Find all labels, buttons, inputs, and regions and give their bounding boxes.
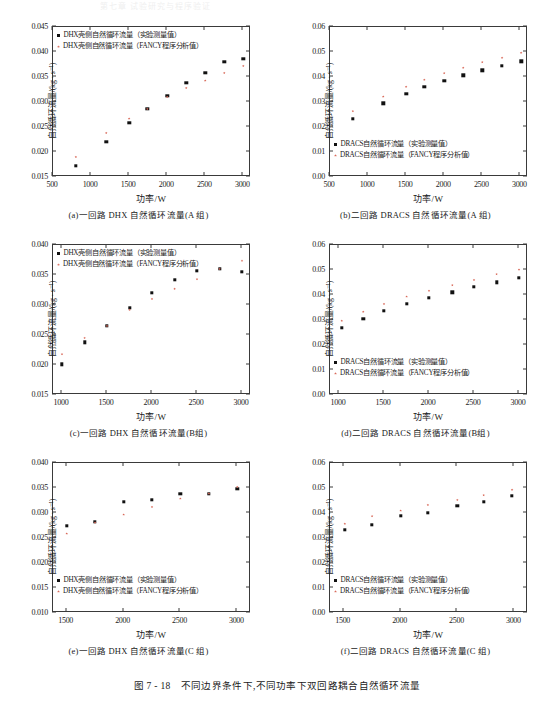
legend-entry-d-0: DRACS自然循环流量（实验测量值） xyxy=(334,357,474,368)
data-point-c-s1-4 xyxy=(151,298,154,301)
xtick-mark-top-d-3 xyxy=(473,244,474,248)
plot-area-a: DHX壳侧自然循环流量（实验测量值）DHX壳侧自然循环流量（FANCY程序分析值… xyxy=(52,26,250,176)
xtick-mark-c-2 xyxy=(151,390,152,394)
subplot-caption-c: (c)一回路 DHX 自然循环流量(B组) xyxy=(0,426,277,438)
data-point-d-s1-8 xyxy=(518,268,521,271)
xtick-mark-a-5 xyxy=(242,172,243,176)
legend-d: DRACS自然循环流量（实验测量值）DRACS自然循环流量（FANCY程序分析值… xyxy=(334,357,474,379)
ytick-mark-right-e-5 xyxy=(246,487,250,488)
xtick-label-d-1: 1500 xyxy=(376,398,391,407)
xtick-label-d-4: 3000 xyxy=(511,398,526,407)
xtick-label-a-5: 3000 xyxy=(235,180,250,189)
data-point-c-s0-4 xyxy=(150,291,153,294)
data-point-f-s1-3 xyxy=(426,504,429,507)
subplot-caption-e: (e)一回路 DHX 自然循环流量(C 组) xyxy=(0,644,277,656)
xtick-mark-d-3 xyxy=(473,390,474,394)
data-point-b-s1-4 xyxy=(443,72,446,75)
data-point-a-s1-1 xyxy=(105,132,108,135)
data-point-b-s0-7 xyxy=(500,64,503,67)
legend-label-b-1: DRACS自然循环流量（FANCY程序分析值） xyxy=(340,150,474,161)
ytick-mark-right-c-3 xyxy=(246,304,250,305)
ytick-mark-right-b-3 xyxy=(523,101,527,102)
chart-panel-b: DRACS自然循环流量（实验测量值）DRACS自然循环流量（FANCY程序分析值… xyxy=(277,14,554,232)
xtick-mark-top-c-3 xyxy=(196,244,197,248)
plot-area-d: DRACS自然循环流量（实验测量值）DRACS自然循环流量（FANCY程序分析值… xyxy=(329,244,527,394)
ytick-mark-right-a-2 xyxy=(246,126,250,127)
xtick-label-b-4: 2500 xyxy=(474,180,489,189)
ytick-mark-right-e-1 xyxy=(246,587,250,588)
ytick-mark-right-b-5 xyxy=(523,51,527,52)
ytick-mark-right-a-0 xyxy=(246,176,250,177)
panel-cell-e: DHX壳侧自然循环流量（实验测量值）DHX壳侧自然循环流量（FANCY程序分析值… xyxy=(0,450,277,668)
y-axis-label-a: 自然循环流量/(kg · s⁻¹) xyxy=(46,26,60,176)
legend-entry-e-1: DHX壳侧自然循环流量（FANCY程序分析值） xyxy=(57,586,203,597)
data-point-a-s0-5 xyxy=(185,81,188,84)
data-point-d-s1-5 xyxy=(451,284,454,287)
ytick-mark-right-d-5 xyxy=(523,269,527,270)
data-point-d-s1-6 xyxy=(473,279,476,282)
ytick-mark-right-e-4 xyxy=(246,512,250,513)
xtick-label-a-0: 500 xyxy=(46,180,57,189)
data-point-c-s0-1 xyxy=(83,340,86,343)
data-point-d-s0-0 xyxy=(340,326,343,329)
subplot-caption-f: (f)二回路 DRACS 自然循环流量(C 组) xyxy=(277,644,554,656)
data-point-b-s0-6 xyxy=(481,69,484,72)
y-axis-label-d: 自然循环流量/(kg · s⁻¹) xyxy=(323,244,337,394)
xtick-mark-a-1 xyxy=(90,172,91,176)
legend-b: DRACS自然循环流量（实验测量值）DRACS自然循环流量（FANCY程序分析值… xyxy=(334,139,474,161)
xtick-mark-b-1 xyxy=(367,172,368,176)
data-point-e-s0-3 xyxy=(150,498,153,501)
data-point-b-s1-3 xyxy=(423,78,426,81)
chart-panel-c: DHX壳侧自然循环流量（实验测量值）DHX壳侧自然循环流量（FANCY程序分析值… xyxy=(0,232,277,450)
xtick-mark-top-a-2 xyxy=(128,26,129,30)
ytick-mark-right-b-0 xyxy=(523,176,527,177)
data-point-b-s0-2 xyxy=(404,92,407,95)
ytick-mark-right-f-4 xyxy=(523,512,527,513)
legend-label-d-0: DRACS自然循环流量（实验测量值） xyxy=(340,357,451,368)
xtick-mark-top-b-2 xyxy=(405,26,406,30)
xtick-label-c-2: 2000 xyxy=(144,398,159,407)
data-point-f-s1-5 xyxy=(482,494,485,497)
ytick-mark-right-e-0 xyxy=(246,612,250,613)
legend-label-c-0: DHX壳侧自然循环流量（实验测量值） xyxy=(63,248,180,259)
ytick-mark-right-f-1 xyxy=(523,587,527,588)
axes-frame-d: DRACS自然循环流量（实验测量值）DRACS自然循环流量（FANCY程序分析值… xyxy=(329,244,527,394)
legend-entry-b-1: DRACS自然循环流量（FANCY程序分析值） xyxy=(334,150,474,161)
xtick-mark-top-c-1 xyxy=(106,244,107,248)
xtick-mark-e-2 xyxy=(179,608,180,612)
data-point-a-s0-6 xyxy=(204,71,207,74)
xtick-mark-top-c-4 xyxy=(241,244,242,248)
data-point-b-s1-1 xyxy=(382,95,385,98)
data-point-e-s1-0 xyxy=(65,532,68,535)
legend-label-c-1: DHX壳侧自然循环流量（FANCY程序分析值） xyxy=(63,259,203,270)
data-point-f-s0-3 xyxy=(426,511,429,514)
y-axis-label-b: 自然循环流量/(kg · s⁻¹) xyxy=(323,26,337,176)
data-point-a-s1-6 xyxy=(204,79,207,82)
xtick-mark-f-0 xyxy=(342,608,343,612)
xtick-mark-b-4 xyxy=(481,172,482,176)
xtick-mark-top-e-2 xyxy=(179,462,180,466)
data-point-f-s1-1 xyxy=(371,515,374,518)
data-point-b-s1-5 xyxy=(462,66,465,69)
x-axis-label-c: 功率/W xyxy=(52,410,250,423)
xtick-label-d-0: 1000 xyxy=(331,398,346,407)
ytick-mark-right-a-4 xyxy=(246,76,250,77)
figure-panel-grid: DHX壳侧自然循环流量（实验测量值）DHX壳侧自然循环流量（FANCY程序分析值… xyxy=(0,14,554,668)
plot-area-b: DRACS自然循环流量（实验测量值）DRACS自然循环流量（FANCY程序分析值… xyxy=(329,26,527,176)
data-point-a-s0-7 xyxy=(223,60,226,63)
x-axis-label-f: 功率/W xyxy=(329,628,527,641)
xtick-label-b-0: 500 xyxy=(323,180,334,189)
xtick-mark-d-4 xyxy=(518,390,519,394)
ytick-mark-right-a-6 xyxy=(246,26,250,27)
xtick-mark-top-a-3 xyxy=(166,26,167,30)
x-axis-label-b: 功率/W xyxy=(329,192,527,205)
xtick-label-c-1: 1500 xyxy=(99,398,114,407)
subplot-caption-d: (d)二回路 DRACS 自然循环流量(B组) xyxy=(277,426,554,438)
axes-frame-e: DHX壳侧自然循环流量（实验测量值）DHX壳侧自然循环流量（FANCY程序分析值… xyxy=(52,462,250,612)
data-point-f-s1-6 xyxy=(511,488,514,491)
legend-e: DHX壳侧自然循环流量（实验测量值）DHX壳侧自然循环流量（FANCY程序分析值… xyxy=(57,575,203,597)
data-point-a-s0-2 xyxy=(127,121,130,124)
legend-label-b-0: DRACS自然循环流量（实验测量值） xyxy=(340,139,451,150)
data-point-b-s1-2 xyxy=(405,85,408,88)
xtick-mark-a-3 xyxy=(166,172,167,176)
